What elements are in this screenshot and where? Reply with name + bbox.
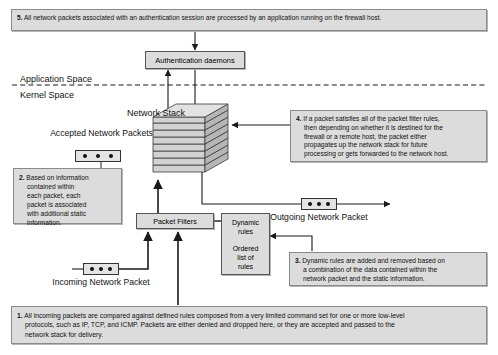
packet-filters-label: Packet Filters — [153, 217, 197, 226]
note-5-text: All network packets associated with an a… — [24, 14, 381, 21]
note-3-number: 3. — [295, 257, 301, 264]
arrow-incoming-to-packet-filters — [119, 232, 148, 269]
incoming-packet-label: Incoming Network Packet — [38, 277, 164, 288]
kernel-space-label: Kernel Space — [20, 90, 74, 101]
note-3-line-1: Dynamic rules are added and removed base… — [302, 257, 445, 264]
note-4-line-4: propagates up the network stack for futu… — [296, 141, 481, 150]
note-1-line-3: network stack for delivery. — [17, 330, 481, 339]
note-4-line-5: processing or gets forwarded to the netw… — [296, 150, 481, 159]
packet-dot-icon — [326, 202, 330, 206]
note-2: 2. Based on information contained within… — [13, 168, 122, 224]
note-2-line-4: packet is associated — [19, 200, 116, 209]
packet-dot-icon — [90, 267, 94, 271]
packet-dot-icon — [83, 154, 87, 158]
note-5-number: 5. — [17, 14, 23, 21]
line-stack-to-outgoing — [202, 172, 301, 204]
arrow-note3-to-dynamic-rules — [270, 236, 312, 251]
network-stack-label: Network Stack — [75, 108, 185, 119]
outgoing-packet-label: Outgoing Network Packet — [256, 212, 382, 223]
note-3-line-2: a combination of the data contained with… — [295, 266, 481, 275]
accepted-packets-label: Accepted Network Packets — [24, 128, 179, 139]
packet-dot-icon — [109, 154, 113, 158]
packet-dot-icon — [99, 267, 103, 271]
dynamic-rules-line-1: Dynamic — [232, 218, 259, 227]
note-2-line-3: each packet, each — [19, 191, 116, 200]
dynamic-rules-box: Dynamic rules Ordered list of rules — [221, 213, 270, 275]
note-2-number: 2. — [19, 174, 25, 181]
note-3: 3. Dynamic rules are added and removed b… — [289, 252, 487, 286]
note-2-line-5: with additional static — [19, 209, 116, 218]
ordered-list-line-3: rules — [238, 262, 253, 271]
authentication-daemons-label: Authentication daemons — [155, 56, 234, 65]
packet-dot-icon — [317, 202, 321, 206]
outgoing-packet-glyph — [301, 198, 337, 210]
incoming-packet-glyph — [83, 263, 119, 275]
accepted-packet-glyph — [75, 150, 121, 162]
authentication-daemons-box: Authentication daemons — [145, 51, 245, 69]
note-4-line-3: firewall or a remote host, the packet ei… — [296, 133, 481, 142]
note-4-line-2: then depending on whether it is destined… — [296, 124, 481, 133]
note-2-line-6: information. — [19, 218, 116, 227]
note-1-line-2: protocols, such as IP, TCP, and ICMP. Pa… — [17, 320, 481, 329]
ordered-list-line-2: list of — [237, 253, 253, 262]
note-5: 5. All network packets associated with a… — [11, 9, 487, 31]
ordered-list-line-1: Ordered — [233, 244, 259, 253]
note-1-line-1: All incoming packets are compared agains… — [24, 312, 404, 319]
packet-dot-icon — [108, 267, 112, 271]
note-4-number: 4. — [296, 115, 302, 122]
note-1-number: 1. — [17, 312, 23, 319]
note-2-line-2: contained within — [19, 182, 116, 191]
note-2-line-1: Based on information — [26, 174, 88, 181]
note-1: 1. All incoming packets are compared aga… — [11, 306, 487, 344]
packet-filters-box: Packet Filters — [136, 213, 214, 229]
application-space-label: Application Space — [20, 74, 92, 85]
note-4: 4. If a packet satisfies all of the pack… — [290, 110, 487, 162]
dynamic-rules-line-2: rules — [238, 227, 253, 236]
diagram-canvas: 5. All network packets associated with a… — [0, 0, 498, 355]
note-4-line-1: If a packet satisfies all of the packet … — [303, 115, 439, 122]
note-3-line-3: network packet and the static informatio… — [295, 275, 481, 284]
packet-dot-icon — [308, 202, 312, 206]
packet-dot-icon — [96, 154, 100, 158]
